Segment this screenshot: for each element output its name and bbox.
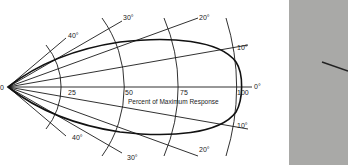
angle-label-down-30: 30° <box>127 154 138 161</box>
arc-50 <box>102 18 124 156</box>
tick-label-75: 75 <box>180 89 188 96</box>
polar-response-diagram: 0 25 50 75 100 Percent of Maximum Respon… <box>0 0 270 165</box>
angle-label-down-40: 40° <box>72 134 83 141</box>
angle-label-down-10: 10° <box>237 122 248 129</box>
angle-label-up-10: 10° <box>237 44 248 51</box>
tick-label-50: 50 <box>125 89 133 96</box>
tick-label-25: 25 <box>68 89 76 96</box>
tick-label-100: 100 <box>237 89 249 96</box>
origin-label: 0 <box>0 84 4 91</box>
angle-label-up-20: 20° <box>199 14 210 21</box>
angle-label-up-30: 30° <box>123 14 134 21</box>
photo-image <box>289 0 348 165</box>
angle-label-up-40: 40° <box>68 32 79 39</box>
angle-label-center: 0° <box>254 83 261 90</box>
polar-chart: 0 25 50 75 100 Percent of Maximum Respon… <box>0 0 270 165</box>
axis-label: Percent of Maximum Response <box>128 98 219 106</box>
radial-line-up-20 <box>8 18 198 87</box>
photo-panel <box>289 0 348 165</box>
angle-label-down-20: 20° <box>199 146 210 153</box>
